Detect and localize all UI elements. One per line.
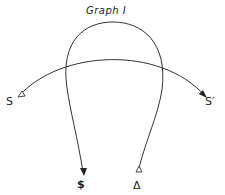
label-s: S <box>6 96 13 107</box>
label-delta: Δ <box>133 180 141 191</box>
arrow-down-icon <box>80 168 87 176</box>
label-dollar: $ <box>77 179 85 190</box>
open-triangle-icon <box>136 166 142 172</box>
graph-title: Graph I <box>86 6 126 16</box>
s-tail-triangle-icon <box>18 91 25 97</box>
loop-curve <box>66 22 163 172</box>
graph-diagram <box>0 0 225 195</box>
label-s-prime: S′ <box>205 96 214 107</box>
s-to-s-prime-arc <box>19 60 205 96</box>
